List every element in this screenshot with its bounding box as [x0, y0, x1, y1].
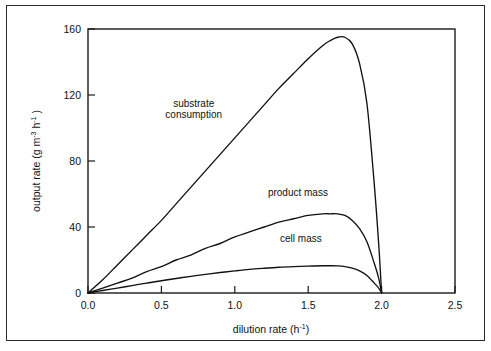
- label-substrate-consumption-line1: substrate: [173, 98, 215, 109]
- y-axis-title: output rate (g m-3 h-1 ): [30, 110, 42, 212]
- label-cell-mass: cell mass: [280, 233, 322, 244]
- y-axis-title-unit-close: ): [30, 110, 42, 116]
- plot-frame: [88, 29, 455, 293]
- curve-substrate-consumption: [88, 37, 382, 293]
- x-tick-label-5: 2.5: [448, 299, 463, 311]
- y-tick-label-120: 120: [63, 89, 81, 101]
- x-tick-label-3: 1.5: [301, 299, 316, 311]
- x-axis-ticks: [88, 286, 455, 293]
- svg-text:output rate (g m-3 h-1 ): output rate (g m-3 h-1 ): [30, 110, 42, 212]
- svg-text:dilution rate (h-1): dilution rate (h-1): [233, 323, 309, 335]
- x-axis-title: dilution rate (h-1): [233, 323, 309, 335]
- y-axis-title-unit-open: (g m: [30, 138, 42, 159]
- figure-root: 160 120 80 40 0 0.0 0.5 1.0 1.5 2.0 2.5 …: [0, 0, 491, 351]
- x-tick-labels: 0.0 0.5 1.0 1.5 2.0 2.5: [81, 299, 463, 311]
- y-tick-label-0: 0: [75, 287, 81, 299]
- y-axis-ticks: [88, 29, 95, 293]
- label-product-mass: product mass: [268, 187, 328, 198]
- x-axis-title-unit-open: (h: [290, 323, 299, 335]
- series-annotations: substrate consumption product mass cell …: [165, 98, 328, 244]
- y-axis-title-main: output rate: [30, 162, 42, 212]
- x-tick-label-2: 1.0: [227, 299, 242, 311]
- x-tick-label-1: 0.5: [154, 299, 169, 311]
- x-tick-label-0: 0.0: [81, 299, 96, 311]
- x-axis-title-unit-close: ): [306, 323, 310, 335]
- y-axis-title-unit-mid: h: [30, 123, 42, 132]
- label-substrate-consumption-line2: consumption: [165, 109, 222, 120]
- x-axis-title-main: dilution rate: [233, 323, 287, 335]
- chart-canvas: 160 120 80 40 0 0.0 0.5 1.0 1.5 2.0 2.5 …: [0, 0, 491, 351]
- y-tick-labels: 160 120 80 40 0: [63, 23, 81, 299]
- curve-product-mass: [88, 214, 382, 293]
- y-tick-label-40: 40: [69, 221, 81, 233]
- y-tick-label-80: 80: [69, 155, 81, 167]
- y-tick-label-160: 160: [63, 23, 81, 35]
- data-curves: [88, 37, 382, 293]
- x-tick-label-4: 2.0: [374, 299, 389, 311]
